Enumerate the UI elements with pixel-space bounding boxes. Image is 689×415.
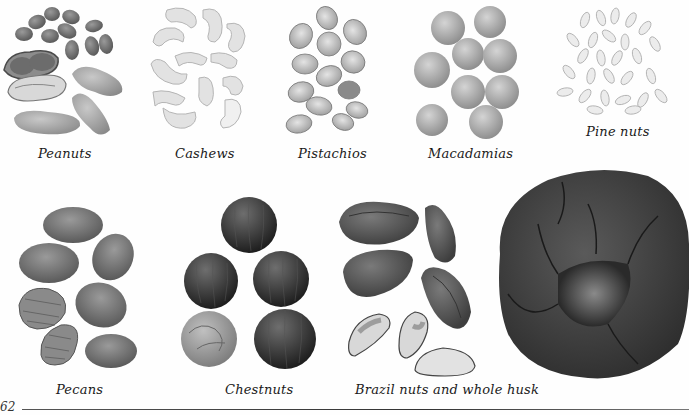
pecans-image [15, 205, 140, 375]
caption-peanuts: Peanuts [38, 146, 92, 161]
caption-cashews: Cashews [175, 146, 235, 161]
peanuts-image [0, 0, 130, 140]
pistachios-image [283, 4, 378, 136]
caption-pistachios: Pistachios [298, 146, 367, 161]
footer-rule [22, 409, 689, 410]
brazil-nuts-image [335, 192, 495, 382]
macadamias-image [410, 4, 525, 139]
book-page: Peanuts Cashews Pistachios Macadamias Pi… [0, 0, 689, 415]
caption-pine-nuts: Pine nuts [586, 124, 650, 139]
caption-pecans: Pecans [56, 382, 103, 397]
caption-chestnuts: Chestnuts [225, 382, 293, 397]
chestnuts-image [175, 193, 325, 378]
caption-macadamias: Macadamias [428, 146, 513, 161]
brazil-nut-husk-image [488, 164, 689, 384]
caption-brazil: Brazil nuts and whole husk [355, 382, 539, 397]
cashews-image [145, 2, 255, 137]
pine-nuts-image [555, 6, 673, 116]
page-number: 62 [0, 400, 15, 414]
